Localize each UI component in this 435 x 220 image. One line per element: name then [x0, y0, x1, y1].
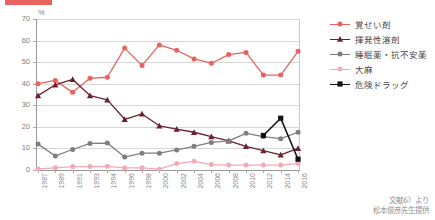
- data-point-marker: [157, 151, 162, 156]
- data-point-marker: [122, 46, 127, 51]
- data-point-marker: [70, 164, 75, 169]
- data-point-marker: [157, 167, 162, 172]
- plot-area: % 010203040506070 1987198919911993199419…: [0, 0, 320, 220]
- legend-item-5[interactable]: 危険ドラッグ: [330, 77, 435, 91]
- data-point-marker: [295, 145, 301, 151]
- data-point-marker: [226, 52, 231, 57]
- data-point-marker: [174, 161, 179, 166]
- data-point-marker: [261, 133, 266, 138]
- data-point-marker: [192, 56, 197, 61]
- data-point-marker: [88, 141, 93, 146]
- legend-item-3[interactable]: 睡眠薬・抗不安薬: [330, 47, 435, 61]
- data-point-marker: [226, 163, 231, 168]
- data-point-marker: [192, 159, 197, 164]
- legend-swatch-icon: [330, 49, 350, 59]
- data-point-marker: [70, 147, 75, 152]
- legend-swatch-icon: [330, 64, 350, 74]
- legend-item-label: 危険ドラッグ: [355, 78, 409, 90]
- data-point-marker: [296, 130, 301, 135]
- data-point-marker: [244, 131, 249, 136]
- data-point-marker: [70, 90, 75, 95]
- legend-swatch-icon: [330, 34, 350, 44]
- data-point-marker: [192, 144, 197, 149]
- data-point-marker: [105, 141, 110, 146]
- data-point-marker: [139, 111, 145, 117]
- chart-figure: % 010203040506070 1987198919911993199419…: [0, 0, 435, 220]
- legend-item-2[interactable]: 揮発性溶剤: [330, 32, 435, 46]
- legend-item-1[interactable]: 覚せい剤: [330, 17, 435, 31]
- source-attribution: 文献6）より 松本俊彦先生提供: [373, 196, 429, 216]
- source-line-2: 松本俊彦先生提供: [373, 206, 429, 216]
- data-point-marker: [337, 36, 343, 42]
- data-point-marker: [88, 164, 93, 169]
- data-point-marker: [209, 162, 214, 167]
- data-point-marker: [261, 163, 266, 168]
- data-point-marker: [278, 73, 283, 78]
- data-point-marker: [338, 22, 343, 27]
- legend-swatch-icon: [330, 79, 350, 89]
- series-line: [38, 132, 298, 157]
- legend-item-4[interactable]: 大麻: [330, 62, 435, 76]
- data-point-marker: [338, 67, 343, 72]
- data-point-marker: [295, 157, 300, 162]
- data-point-marker: [35, 92, 41, 98]
- data-point-marker: [209, 61, 214, 66]
- data-point-marker: [244, 50, 249, 55]
- data-point-marker: [296, 49, 301, 54]
- legend-item-label: 睡眠薬・抗不安薬: [355, 48, 427, 60]
- legend-item-label: 覚せい剤: [355, 18, 391, 30]
- data-point-marker: [36, 81, 41, 86]
- data-point-marker: [278, 116, 283, 121]
- legend: 覚せい剤揮発性溶剤睡眠薬・抗不安薬大麻危険ドラッグ: [330, 17, 435, 92]
- data-point-marker: [157, 42, 162, 47]
- data-point-marker: [278, 163, 283, 168]
- data-point-marker: [122, 155, 127, 160]
- data-point-marker: [261, 73, 266, 78]
- data-point-marker: [140, 165, 145, 170]
- data-point-marker: [105, 75, 110, 80]
- data-point-marker: [244, 163, 249, 168]
- data-point-marker: [36, 142, 41, 147]
- data-point-marker: [140, 151, 145, 156]
- data-point-marker: [174, 147, 179, 152]
- series-覚せい剤: [36, 42, 301, 94]
- data-point-marker: [105, 164, 110, 169]
- series-揮発性溶剤: [35, 76, 301, 157]
- data-point-marker: [174, 48, 179, 53]
- data-point-marker: [278, 136, 283, 141]
- series-lines: [0, 0, 320, 220]
- data-point-marker: [338, 52, 343, 57]
- data-point-marker: [53, 165, 58, 170]
- legend-item-label: 大麻: [355, 63, 373, 75]
- source-line-1: 文献6）より: [373, 196, 429, 206]
- data-point-marker: [70, 76, 76, 82]
- data-point-marker: [337, 81, 342, 86]
- data-point-marker: [88, 76, 93, 81]
- data-point-marker: [226, 138, 231, 143]
- data-point-marker: [53, 153, 58, 158]
- legend-swatch-icon: [330, 19, 350, 29]
- data-point-marker: [122, 165, 127, 170]
- series-line: [38, 45, 298, 92]
- series-line: [38, 79, 298, 154]
- legend-item-label: 揮発性溶剤: [355, 33, 400, 45]
- data-point-marker: [36, 166, 41, 171]
- series-大麻: [36, 159, 301, 172]
- data-point-marker: [209, 140, 214, 145]
- data-point-marker: [140, 63, 145, 68]
- series-line: [38, 161, 298, 169]
